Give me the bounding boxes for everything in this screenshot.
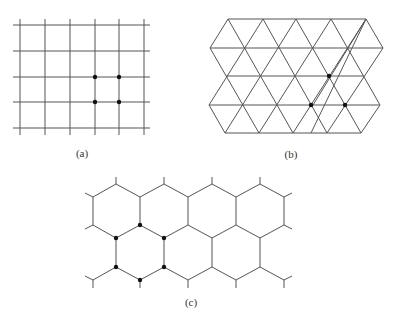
highlight-dot — [117, 100, 121, 104]
panel-a-square-lattice: (a) — [13, 19, 150, 160]
highlight-dot — [162, 236, 166, 240]
panel-label-a: (a) — [76, 147, 89, 160]
panel-label-c: (c) — [185, 296, 198, 309]
highlight-dot — [162, 265, 166, 269]
highlight-dot — [114, 236, 118, 240]
panel-b-triangular-lattice: (b) — [209, 19, 383, 161]
highlight-dot — [117, 75, 121, 79]
highlight-dot — [114, 265, 118, 269]
lattice-figure: (a) — [0, 0, 395, 317]
highlight-dot — [138, 223, 142, 227]
highlight-dot — [138, 278, 142, 282]
highlight-dot — [309, 103, 313, 107]
highlight-dot — [343, 103, 347, 107]
panel-label-b: (b) — [285, 148, 298, 161]
highlight-dot — [327, 74, 331, 78]
highlight-dot — [93, 75, 97, 79]
panel-c-hexagonal-lattice: (c) — [85, 177, 292, 309]
highlight-dot — [93, 100, 97, 104]
